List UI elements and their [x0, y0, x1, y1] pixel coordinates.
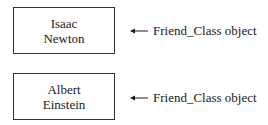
- arrow-left-icon: [130, 27, 148, 35]
- pointer-label-einstein: Friend_Class object: [130, 90, 257, 106]
- object-type-label: Friend_Class object: [153, 23, 257, 39]
- name-first: Albert: [47, 82, 80, 97]
- object-box-einstein: Albert Einstein: [13, 73, 115, 120]
- name-first: Isaac: [51, 16, 78, 31]
- pointer-label-newton: Friend_Class object: [130, 23, 257, 39]
- name-last: Einstein: [43, 97, 86, 112]
- object-type-label: Friend_Class object: [153, 90, 257, 106]
- name-last: Newton: [43, 31, 84, 46]
- object-box-newton: Isaac Newton: [13, 7, 115, 54]
- arrow-left-icon: [130, 94, 148, 102]
